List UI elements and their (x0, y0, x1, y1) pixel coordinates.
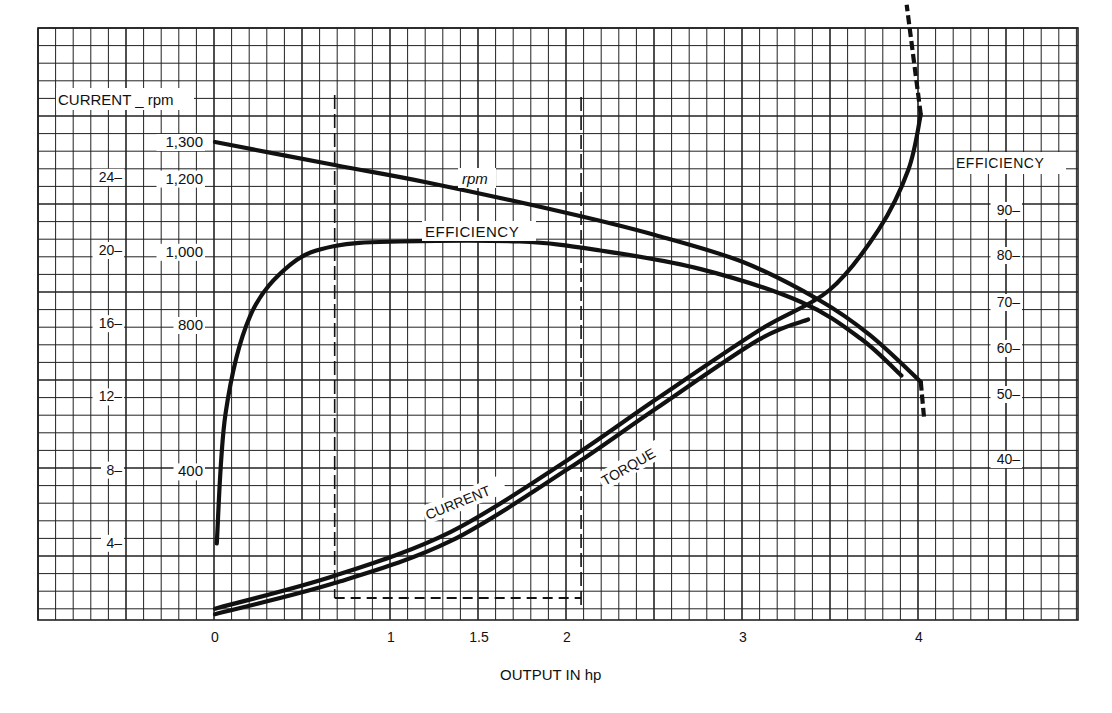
current-tick-label: 12– (99, 388, 123, 404)
current-tick-label: 24– (99, 169, 123, 185)
efficiency-tick-label: 70– (997, 294, 1021, 310)
rpm-tick-label: 1,000 (165, 243, 203, 260)
efficiency-tick-label: 50– (997, 386, 1021, 402)
rpm-tick-label: 1,200 (165, 170, 203, 187)
current-tick-label: 4– (106, 535, 122, 551)
rpm-curve-label: rpm (458, 168, 496, 188)
current-tick-label: 16– (99, 315, 123, 331)
x-tick-label: 1 (387, 629, 395, 645)
efficiency-tick-label: 60– (997, 340, 1021, 356)
current-tick-label: 8– (106, 462, 122, 478)
x-axis-title: OUTPUT IN hp (500, 666, 601, 683)
efficiency-curve-label: EFFICIENCY (422, 221, 536, 241)
rpm-dashed-extension (921, 382, 925, 420)
current-tick-label: 20– (99, 242, 123, 258)
current-curve (215, 115, 921, 609)
rpm-curve (215, 142, 921, 382)
torque-label: TORQUE (599, 445, 659, 489)
right-axis-header: EFFICIENCY (954, 152, 1066, 174)
chart-canvas: 4–8–12–16–20–24–4008001,0001,2001,30040–… (0, 0, 1112, 713)
motor-performance-chart: 4–8–12–16–20–24–4008001,0001,2001,30040–… (0, 0, 1112, 713)
efficiency-tick-label: 90– (997, 202, 1021, 218)
right-axis-title: EFFICIENCY (956, 155, 1044, 171)
rpm-tick-label: 400 (178, 462, 203, 479)
left-axis-header: CURRENT _ rpm (56, 88, 194, 110)
x-tick-label: 3 (739, 629, 747, 645)
torque-curve (215, 320, 808, 615)
x-tick-label: 0 (211, 629, 219, 645)
efficiency-label: EFFICIENCY (425, 223, 519, 240)
rpm-label: rpm (462, 170, 488, 187)
efficiency-tick-label: 80– (997, 247, 1021, 263)
rpm-tick-label: 1,300 (165, 133, 203, 150)
left-axis-title: CURRENT _ rpm (58, 91, 174, 108)
rpm-tick-label: 800 (178, 316, 203, 333)
x-tick-label: 2 (563, 629, 571, 645)
efficiency-tick-label: 40– (997, 451, 1021, 467)
x-tick-label: 1.5 (469, 629, 489, 645)
x-tick-label: 4 (915, 629, 923, 645)
